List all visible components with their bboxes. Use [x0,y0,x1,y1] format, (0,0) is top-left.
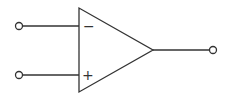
output-terminal [210,47,217,54]
non-inverting-input-terminal [16,72,23,79]
inverting-input-terminal [16,23,23,30]
op-amp-diagram [0,0,229,99]
inverting-input-label: − [83,19,95,33]
non-inverting-input-label: + [82,68,94,82]
